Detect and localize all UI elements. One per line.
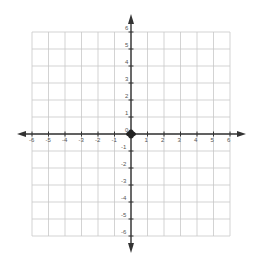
y-tick-label: -6 bbox=[121, 229, 127, 235]
y-tick-label: -1 bbox=[121, 144, 127, 150]
x-tick-label: -5 bbox=[46, 137, 52, 143]
y-axis-up-arrow-icon bbox=[128, 14, 134, 24]
y-axis-down-arrow-icon bbox=[128, 243, 134, 253]
y-tick-label: -2 bbox=[121, 161, 127, 167]
y-tick-label: -4 bbox=[121, 195, 127, 201]
x-tick-label: -6 bbox=[29, 137, 35, 143]
x-axis-left-arrow-icon bbox=[17, 131, 26, 137]
origin-point-vertical bbox=[128, 130, 134, 139]
y-tick-label: 5 bbox=[125, 42, 129, 48]
y-tick-label: 1 bbox=[125, 110, 129, 116]
y-tick-label: 2 bbox=[125, 93, 129, 99]
y-tick-label: 3 bbox=[125, 76, 129, 82]
x-axis-right-arrow-icon bbox=[237, 131, 246, 137]
y-tick-label: -5 bbox=[121, 212, 127, 218]
y-tick-label: 4 bbox=[125, 59, 129, 65]
x-tick-label: -3 bbox=[79, 137, 85, 143]
x-tick-label: -1 bbox=[112, 137, 118, 143]
x-tick-label: -4 bbox=[62, 137, 68, 143]
y-tick-label: -3 bbox=[121, 178, 127, 184]
y-tick-labels: 6543210-1-2-3-4-5-6 bbox=[121, 25, 129, 235]
y-tick-label: 6 bbox=[125, 25, 129, 31]
coordinate-plane: -6-5-4-3-2-1123456 6543210-1-2-3-4-5-6 bbox=[0, 0, 260, 262]
x-tick-label: -2 bbox=[95, 137, 101, 143]
